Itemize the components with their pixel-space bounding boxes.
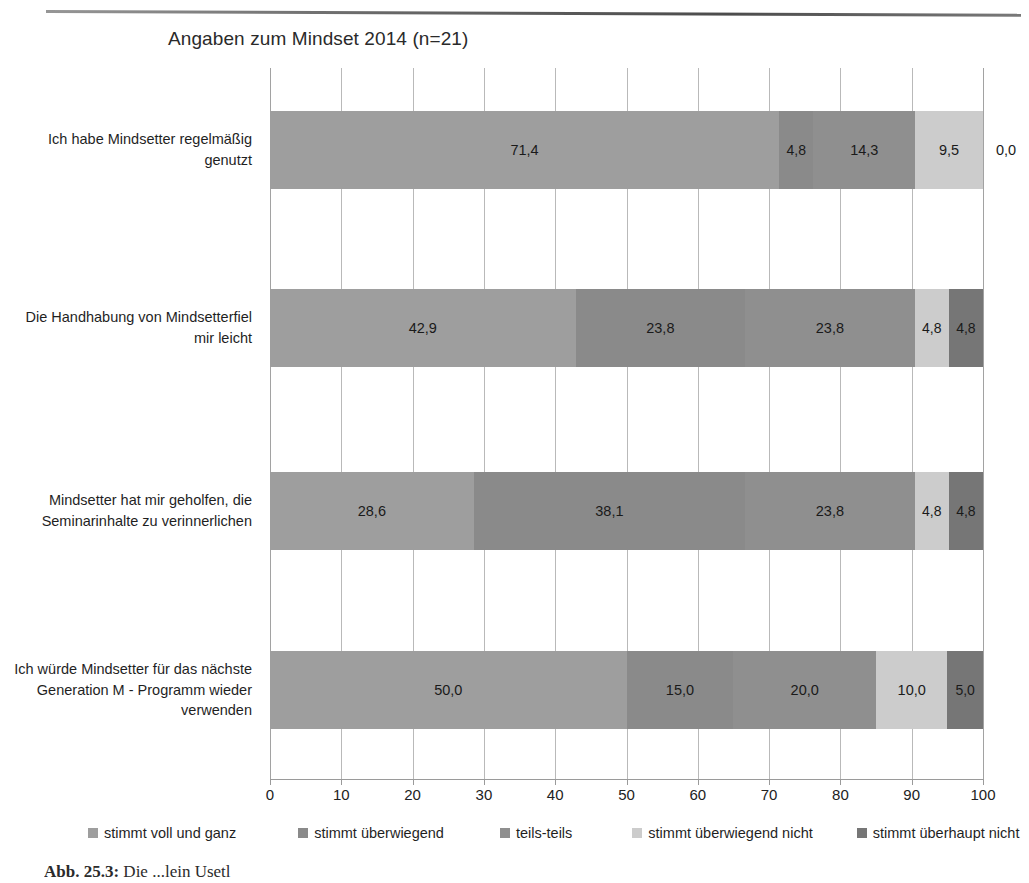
x-tick-label: 70 [761,786,778,803]
legend-item: stimmt überwiegend [298,825,444,841]
bar-value-label: 10,0 [898,682,926,698]
x-tick-mark [912,779,913,785]
bar-row: Die Handhabung von Mindsetterfiel mir le… [270,289,983,367]
bar-segment: 15,0 [627,651,734,729]
bar-segment: 20,0 [733,651,876,729]
bar-segment: 4,8 [779,111,813,189]
bar-value-label: 5,0 [955,682,974,698]
bar-segment: 42,9 [270,289,576,367]
chart-legend: stimmt voll und ganzstimmt überwiegendte… [88,820,968,846]
bar-value-label: 0,0 [996,142,1016,158]
plot-area: Ich habe Mindsetter regelmäßig genutzt71… [270,68,983,779]
bar-segment: 14,3 [813,111,915,189]
x-tick-mark [840,779,841,785]
figure-number: Abb. 25.3: [44,862,119,881]
x-tick-mark [341,779,342,785]
bar-segment: 28,6 [270,472,474,550]
x-tick-label: 20 [404,786,421,803]
chart-title: Angaben zum Mindset 2014 (n=21) [168,28,468,50]
legend-item: stimmt überwiegend nicht [632,825,812,841]
legend-label: stimmt voll und ganz [104,825,236,841]
bar-segment: 4,8 [915,472,949,550]
bar-segment: 23,8 [745,289,915,367]
bar-segment: 10,0 [876,651,947,729]
legend-item: stimmt überhaupt nicht [857,825,1020,841]
bar-row: Mindsetter hat mir geholfen, die Seminar… [270,472,983,550]
x-tick-mark [983,779,984,785]
x-tick-mark [270,779,271,785]
bar-row: Ich würde Mindsetter für das nächste Gen… [270,651,983,729]
x-tick-mark [698,779,699,785]
bar-value-label: 14,3 [850,142,878,158]
bar-value-label: 4,8 [922,320,941,336]
x-tick-label: 60 [689,786,706,803]
bar-row: Ich habe Mindsetter regelmäßig genutzt71… [270,111,983,189]
category-label: Mindsetter hat mir geholfen, die Seminar… [12,472,252,550]
x-tick-label: 0 [266,786,274,803]
legend-swatch-icon [500,828,510,838]
bar-segment: 5,0 [947,651,983,729]
bar-value-label: 42,9 [409,320,437,336]
bar-value-label: 20,0 [791,682,819,698]
legend-swatch-icon [298,828,308,838]
x-tick-label: 100 [970,786,995,803]
x-tick-label: 30 [476,786,493,803]
x-tick-label: 10 [333,786,350,803]
bar-segment: 9,5 [915,111,983,189]
bar-value-label: 15,0 [666,682,694,698]
bar-segment: 50,0 [270,651,627,729]
x-tick-label: 80 [832,786,849,803]
x-tick-mark [627,779,628,785]
bar-value-label: 50,0 [434,682,462,698]
legend-label: stimmt überwiegend [314,825,444,841]
x-tick-mark [555,779,556,785]
bar-value-label: 23,8 [646,320,674,336]
bar-value-label: 4,8 [956,503,975,519]
legend-item: stimmt voll und ganz [88,825,236,841]
bar-value-label: 28,6 [358,503,386,519]
figure-caption-text: Die ...lein Usetl [123,862,230,881]
bar-segment: 23,8 [576,289,746,367]
bar-value-label: 4,8 [786,142,805,158]
x-tick-mark [769,779,770,785]
figure-caption: Abb. 25.3: Die ...lein Usetl [44,862,231,883]
stacked-bar-chart: Angaben zum Mindset 2014 (n=21) Ich habe… [0,0,1029,883]
category-label: Ich habe Mindsetter regelmäßig genutzt [12,111,252,189]
bar-value-label: 23,8 [816,503,844,519]
x-tick-label: 50 [618,786,635,803]
bar-segment: 71,4 [270,111,779,189]
legend-label: teils-teils [516,825,572,841]
x-tick-mark [413,779,414,785]
bar-value-label: 4,8 [922,503,941,519]
bar-value-label: 38,1 [595,503,623,519]
bar-value-label: 23,8 [816,320,844,336]
legend-swatch-icon [857,828,867,838]
bar-segment: 4,8 [949,289,983,367]
bar-segment: 23,8 [745,472,915,550]
bar-value-label: 9,5 [939,142,959,158]
category-label: Die Handhabung von Mindsetterfiel mir le… [12,289,252,367]
category-label: Ich würde Mindsetter für das nächste Gen… [12,651,252,729]
gridline-100 [983,68,984,779]
bar-segment: 4,8 [915,289,949,367]
legend-label: stimmt überhaupt nicht [873,825,1020,841]
x-tick-mark [484,779,485,785]
bar-segment: 4,8 [949,472,983,550]
legend-swatch-icon [632,828,642,838]
bar-value-label: 4,8 [956,320,975,336]
legend-swatch-icon [88,828,98,838]
bar-value-label: 71,4 [510,142,538,158]
legend-label: stimmt überwiegend nicht [648,825,812,841]
x-tick-label: 40 [547,786,564,803]
legend-item: teils-teils [500,825,572,841]
bar-segment: 38,1 [474,472,745,550]
x-tick-label: 90 [903,786,920,803]
